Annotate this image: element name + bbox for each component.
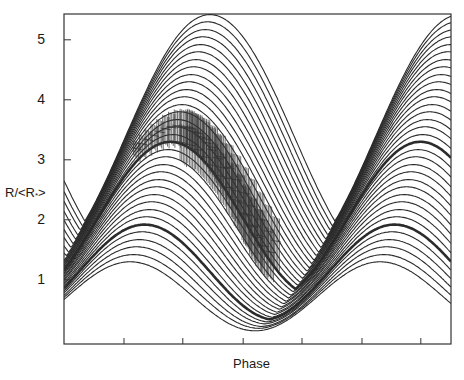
- y-axis-ticks: [64, 40, 71, 280]
- y-tick-label: 5: [25, 31, 45, 47]
- model-curve: [64, 262, 451, 331]
- y-axis-label: R/<R*>: [5, 185, 46, 200]
- y-tick-label: 2: [25, 211, 45, 227]
- x-axis-ticks: [124, 338, 421, 344]
- chart-plot: [0, 0, 464, 380]
- y-tick-label: 4: [25, 91, 45, 107]
- y-tick-label: 3: [25, 151, 45, 167]
- y-tick-label: 1: [25, 271, 45, 287]
- model-curves: [64, 15, 451, 331]
- x-axis-label: Phase: [233, 356, 270, 371]
